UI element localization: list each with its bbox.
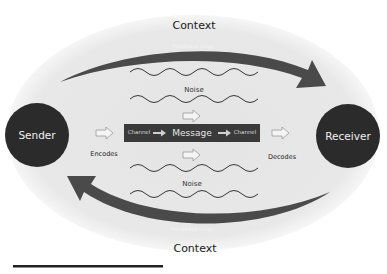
noise-label-top: Noise [184, 87, 203, 94]
feedback-loop-label-bottom: Feedback Loop [171, 227, 212, 233]
sender-label: Sender [18, 130, 55, 141]
channel-label-left: Channel [128, 130, 151, 136]
noise-label-bottom: Noise [182, 181, 201, 188]
context-label-bottom: Context [173, 243, 216, 254]
channel-label-right: Channel [234, 130, 257, 136]
feedback-loop-label-top: Feedback Loop [172, 44, 213, 50]
underline-rule [13, 265, 163, 268]
receiver-label: Receiver [325, 131, 370, 142]
context-label-top: Context [172, 20, 215, 31]
encodes-label: Encodes [90, 151, 117, 158]
message-label: Message [172, 129, 211, 138]
decodes-label: Decodes [268, 154, 296, 161]
